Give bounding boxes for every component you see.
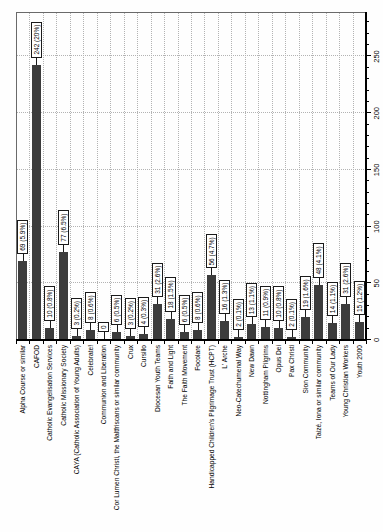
bar [247,324,256,339]
category-gridline [191,13,192,340]
value-gridline [16,169,366,170]
data-label-whisker [130,329,131,336]
value-axis-line [365,12,367,341]
value-gridline [16,112,366,113]
category-label: Communion and Liberation [99,345,108,531]
value-tick-label: 100 [372,215,381,239]
data-label-box: 242 (20%) [31,22,42,58]
data-label-box: 16 (1.3%) [219,280,230,314]
bar [18,261,27,339]
category-label: Crux [126,345,135,531]
category-label: New Dawn [247,345,256,531]
data-label-box: 13 (1.1%) [246,283,257,317]
data-label-box: 8 (0.6%) [85,292,96,323]
data-label-box: 14 (1.1%) [327,282,338,316]
category-gridline [312,13,313,340]
data-label-whisker [184,325,185,332]
data-label-whisker [90,323,91,330]
bar [301,317,310,339]
data-label-box: 3 (0.2%) [125,298,136,329]
value-gridline [16,56,366,57]
value-tick-label: 150 [372,158,381,182]
value-tick-label: 250 [372,45,381,69]
category-gridline [137,13,138,340]
category-label: CAYA (Catholic Association of Young Adul… [72,345,81,531]
bar [59,252,68,339]
data-label-whisker [332,316,333,323]
category-gridline [231,13,232,340]
category-label: Faith and Light [166,345,175,531]
data-label-box: 0 [98,322,109,332]
bar-chart: 69 (5.9%)242 (20%)10 (0.8%)77 (6.5%)3 (0… [0,0,383,532]
data-label-box: 69 (5.9%) [17,220,28,254]
value-tick-label: 0 [372,328,381,352]
data-label-whisker [225,314,226,321]
category-label: CAFOD [32,345,41,531]
bar [328,323,337,339]
data-label-box: 18 (1.5%) [165,277,176,311]
bar [153,304,162,339]
category-label: Celebrate! [86,345,95,531]
data-label-box: 8 (0.6%) [192,292,203,323]
data-label-whisker [36,58,37,65]
plot-frame-top [16,13,17,340]
category-gridline [178,13,179,340]
bar [112,332,121,339]
category-label: Pax Christi [287,345,296,531]
data-label-box: 4 (0.3%) [138,297,149,328]
data-label-whisker [346,297,347,304]
data-label-box: 10 (0.8%) [273,286,284,320]
data-label-whisker [292,330,293,337]
data-label-box: 31 (2.6%) [340,263,351,297]
data-label-whisker [279,321,280,328]
data-label-whisker [171,312,172,319]
category-label: Handicapped Children's Pilgrimage Trust … [207,345,216,531]
bar [355,322,364,339]
bar [32,65,41,339]
data-label-box: 56 (4.7%) [206,234,217,268]
category-axis-line [16,339,367,341]
category-label: Young Christian Workers [341,345,350,531]
scanned-page: 69 (5.9%)242 (20%)10 (0.8%)77 (6.5%)3 (0… [0,0,383,532]
data-label-whisker [319,278,320,285]
data-label-box: 2 (0.1%) [286,299,297,330]
bar [86,330,95,339]
data-label-whisker [252,317,253,324]
category-label: Focolare [193,345,202,531]
data-label-box: 10 (0.8%) [44,286,55,320]
data-label-whisker [359,315,360,322]
category-label: Opus Dei [274,345,283,531]
bar [341,304,350,339]
bar [193,330,202,339]
category-label: Neo-Catechumenal Way [234,345,243,531]
category-label: Alpha Course or similar [18,345,27,531]
category-gridline [124,13,125,340]
category-label: Diocesan Youth Teams [153,345,162,531]
data-label-box: 15 (1.2%) [354,281,365,315]
category-label: Catholic Evangelisation Services [45,345,54,531]
data-label-whisker [104,332,105,339]
data-label-box: 3 (0.2%) [71,298,82,329]
data-label-whisker [117,325,118,332]
category-label: Cor Lumen Christi, the Maltfriscans or s… [112,345,121,531]
data-label-whisker [77,329,78,336]
bar [261,327,270,339]
data-label-whisker [305,310,306,317]
category-gridline [70,13,71,340]
category-gridline [110,13,111,340]
data-label-box: 77 (6.5%) [58,211,69,245]
value-tick-label: 200 [372,101,381,125]
category-label: Nottingham Pilgrims [261,345,270,531]
bar [314,285,323,339]
category-gridline [83,13,84,340]
data-label-whisker [157,297,158,304]
category-gridline [56,13,57,340]
data-label-whisker [63,245,64,252]
data-label-whisker [265,320,266,327]
category-label: Cursillo [139,345,148,531]
data-label-whisker [211,269,212,276]
data-label-box: 11 (0.9%) [260,286,271,320]
value-tick-label: 50 [372,271,381,295]
category-label: Taizé, Iona or similar community [314,345,323,531]
category-gridline [285,13,286,340]
